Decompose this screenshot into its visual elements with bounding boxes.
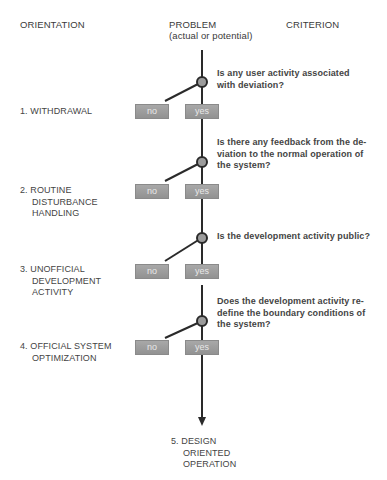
arrow-head [198,417,206,426]
no-box-4: no [135,340,169,355]
orientation-1-line-1: 1. WITHDRAWAL [20,106,92,118]
question-3: Is the development activity public? [217,231,370,243]
orientation-5-line-3: OPERATION [171,459,236,471]
question-2-line-3: the system? [217,160,366,172]
header-problem-sub: (actual or potential) [169,30,252,41]
no-branch-2 [165,239,200,261]
orientation-5-line-2: ORIENTED [171,448,236,460]
orientation-3-line-3: ACTIVITY [20,287,101,299]
orientation-5-line-1: 5. DESIGN [171,436,236,448]
no-branch-0 [165,83,200,101]
yes-box-2: yes [185,184,219,199]
orientation-3-line-1: 3. UNOFFICIAL [20,264,101,276]
header-orientation: ORIENTATION [20,19,85,30]
orientation-2-line-3: HANDLING [20,208,98,220]
orientation-3: 3. UNOFFICIAL DEVELOPMENT ACTIVITY [20,264,101,299]
orientation-4-line-1: 4. OFFICIAL SYSTEM [20,341,111,353]
question-4-line-1: Does the development activity re- [217,296,365,308]
orientation-1: 1. WITHDRAWAL [20,106,92,118]
no-box-1: no [135,104,169,119]
orientation-2-line-1: 2. ROUTINE [20,185,98,197]
question-4: Does the development activity re- define… [217,296,365,331]
decision-node-3 [197,316,207,326]
question-2-line-1: Is there any feedback from the de- [217,137,366,149]
orientation-5: 5. DESIGN ORIENTED OPERATION [171,436,236,471]
decision-node-1 [197,157,207,167]
question-4-line-3: the system? [217,319,365,331]
question-1-line-1: Is any user activity associated [217,68,350,80]
orientation-3-line-2: DEVELOPMENT [20,276,101,288]
orientation-4: 4. OFFICIAL SYSTEM OPTIMIZATION [20,341,111,364]
question-4-line-2: define the boundary conditions of [217,308,365,320]
decision-node-0 [197,77,207,87]
yes-box-1: yes [185,104,219,119]
header-problem: PROBLEM [169,19,216,30]
no-branch-1 [165,163,200,181]
orientation-2: 2. ROUTINE DISTURBANCE HANDLING [20,185,98,220]
question-2: Is there any feedback from the de- viati… [217,137,366,172]
question-2-line-2: viation to the normal operation of [217,149,366,161]
no-box-2: no [135,184,169,199]
orientation-4-line-2: OPTIMIZATION [20,353,111,365]
no-branch-3 [165,322,200,338]
decision-node-2 [197,233,207,243]
yes-box-4: yes [185,340,219,355]
question-1: Is any user activity associated with dev… [217,68,350,91]
no-box-3: no [135,264,169,279]
header-criterion: CRITERION [286,19,339,30]
yes-box-3: yes [185,264,219,279]
question-3-line-1: Is the development activity public? [217,231,370,243]
orientation-2-line-2: DISTURBANCE [20,197,98,209]
question-1-line-2: with deviation? [217,80,350,92]
